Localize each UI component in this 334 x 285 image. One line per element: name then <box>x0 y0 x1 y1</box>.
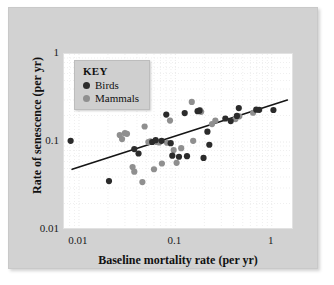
legend: KEY Birds Mammals <box>74 60 150 110</box>
y-tick-label: 0.1 <box>17 134 59 146</box>
legend-marker-icon <box>83 82 90 89</box>
legend-marker-icon <box>83 95 90 102</box>
y-axis-title: Rate of senescence (per yr) <box>30 36 45 216</box>
legend-item-label: Mammals <box>95 92 139 104</box>
x-tick-label: 0.01 <box>53 234 103 246</box>
legend-item-birds: Birds <box>83 79 139 91</box>
legend-title: KEY <box>83 65 139 77</box>
legend-item-mammals: Mammals <box>83 92 139 104</box>
x-axis-title: Baseline mortality rate (per yr) <box>49 253 307 268</box>
y-tick-label: 0.01 <box>17 222 59 234</box>
x-tick-label: 1 <box>246 234 296 246</box>
y-tick-label: 1 <box>17 46 59 58</box>
x-tick-label: 0.1 <box>149 234 199 246</box>
legend-item-label: Birds <box>95 79 119 91</box>
scatter-plot-area: KEY Birds Mammals <box>63 53 293 229</box>
figure-card: Rate of senescence (per yr) 1 0.1 0.01 0… <box>8 7 318 269</box>
